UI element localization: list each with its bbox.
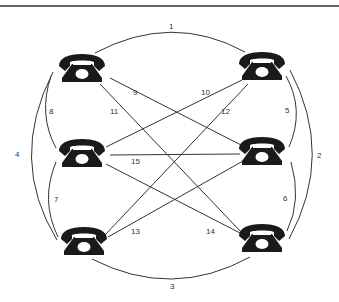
link-label-14: 14: [206, 227, 215, 236]
telephone-icon: [59, 54, 105, 82]
link-3: [92, 257, 250, 279]
link-label-5: 5: [285, 106, 290, 115]
telephone-icon: [239, 52, 285, 80]
link-15: [110, 154, 240, 155]
link-2: [289, 70, 312, 239]
telephone-icon: [239, 137, 285, 165]
link-label-12: 12: [221, 107, 230, 116]
link-6: [287, 162, 296, 231]
link-14: [106, 164, 242, 234]
link-label-9: 9: [133, 88, 138, 97]
telephone-icon: [59, 139, 105, 167]
link-13: [108, 161, 243, 237]
link-label-6: 6: [283, 194, 288, 203]
link-label-7: 7: [54, 195, 59, 204]
network-diagram: 1 2 3 4 5 6 7 8 9 10 11 12 13 14 15: [0, 0, 339, 302]
telephone-icon: [239, 224, 285, 252]
link-label-8: 8: [49, 107, 54, 116]
link-label-4: 4: [15, 150, 20, 159]
link-label-2: 2: [317, 151, 322, 160]
link-label-13: 13: [131, 227, 140, 236]
link-label-11: 11: [110, 107, 119, 116]
link-label-1: 1: [169, 22, 174, 31]
link-label-10: 10: [201, 88, 210, 97]
link-label-3: 3: [170, 282, 175, 291]
link-1: [95, 32, 245, 53]
telephone-icon: [61, 227, 107, 255]
link-4: [31, 72, 57, 240]
link-label-15: 15: [131, 157, 140, 166]
